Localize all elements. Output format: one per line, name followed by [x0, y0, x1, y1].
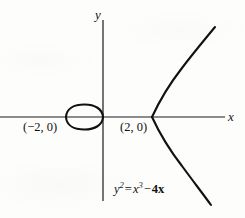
- equation-four-x: 4x: [152, 182, 165, 196]
- curve-equation-label: y2=x3−4x: [114, 181, 164, 196]
- point-label-two-zero: (2, 0): [120, 121, 147, 134]
- equation-minus: −: [143, 182, 152, 196]
- curve-right-branch-upper: [152, 27, 215, 117]
- x-axis-label: x: [228, 110, 234, 123]
- elliptic-curve-figure: y x (−2, 0) (2, 0) y2=x3−4x: [0, 0, 245, 218]
- equation-equals: =: [124, 182, 133, 196]
- y-axis-label: y: [95, 8, 101, 21]
- point-label-minus-two-zero: (−2, 0): [23, 121, 57, 134]
